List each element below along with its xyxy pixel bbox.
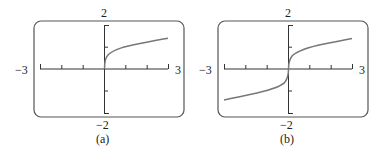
panel-b: 2 −2 −3 3 (b) xyxy=(199,6,368,146)
x-max-label: 3 xyxy=(175,63,181,77)
x-max-label: 3 xyxy=(359,63,365,77)
caption-b: (b) xyxy=(280,132,294,146)
curve-a xyxy=(105,38,169,69)
figure: 2 −2 −3 3 (a) 2 −2 −3 3 (b) xyxy=(0,0,382,152)
y-min-label: −2 xyxy=(280,118,293,132)
x-min-label: −3 xyxy=(199,63,212,77)
x-min-label: −3 xyxy=(15,63,28,77)
y-max-label: 2 xyxy=(101,6,107,20)
y-min-label: −2 xyxy=(96,118,109,132)
panel-a: 2 −2 −3 3 (a) xyxy=(15,6,184,146)
y-max-label: 2 xyxy=(285,6,291,20)
caption-a: (a) xyxy=(96,132,109,146)
